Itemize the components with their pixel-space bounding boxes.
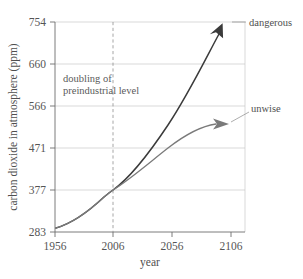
- gridlines-horizontal: [55, 22, 245, 190]
- x-tick-label-2106: 2106: [220, 240, 243, 252]
- y-tick-label-754: 754: [29, 16, 47, 28]
- unwise-label: unwise: [251, 103, 281, 114]
- x-tick-label-1956: 1956: [44, 240, 67, 252]
- x-tick-label-2006: 2006: [102, 240, 125, 252]
- y-tick-label-471: 471: [29, 142, 47, 154]
- chart-svg: 754 660 566 471 377 283 1956 2006 2056 2…: [0, 0, 303, 279]
- doubling-annotation-line1: doubling of: [63, 73, 112, 84]
- doubling-annotation-line2: preindustrial level: [63, 85, 139, 96]
- y-tick-label-660: 660: [29, 58, 47, 70]
- unwise-leader-line: [231, 112, 249, 122]
- curve-unwise: [56, 124, 216, 228]
- y-axis-title: carbon dioxide in atmosphere (ppm): [7, 43, 20, 211]
- curve-dangerous-arrowhead: [210, 22, 225, 38]
- y-tick-label-283: 283: [29, 226, 47, 238]
- y-tick-label-377: 377: [29, 184, 47, 196]
- dangerous-label: dangerous: [249, 17, 292, 28]
- y-tick-label-566: 566: [29, 100, 47, 112]
- y-tickmarks: [50, 22, 55, 232]
- x-tickmarks: [55, 232, 231, 237]
- x-axis-title: year: [140, 256, 160, 269]
- co2-projection-chart: 754 660 566 471 377 283 1956 2006 2056 2…: [0, 0, 303, 279]
- x-tick-label-2056: 2056: [161, 240, 184, 252]
